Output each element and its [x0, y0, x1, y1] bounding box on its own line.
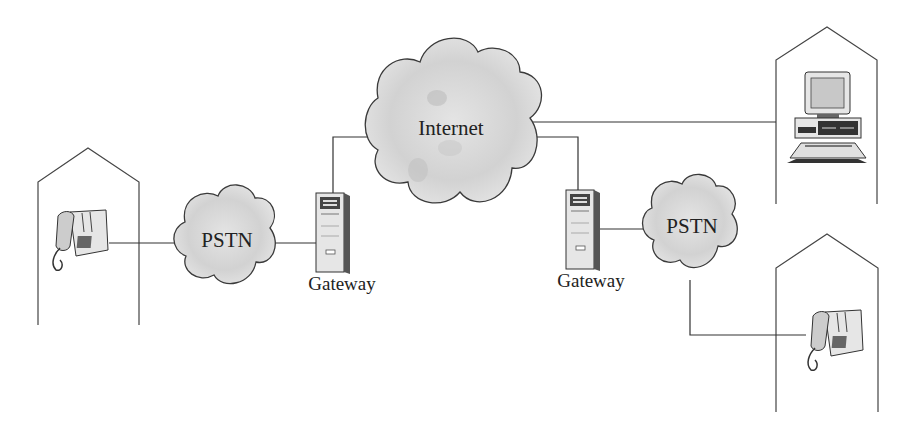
gateway-left-server-icon: [316, 193, 350, 274]
pstn-left-label: PSTN: [201, 228, 252, 253]
telephone-left-icon: [53, 210, 108, 270]
pstn-right-label: PSTN: [666, 214, 717, 239]
gateway-right-label: Gateway: [557, 270, 625, 292]
gateway-left-label: Gateway: [308, 273, 376, 295]
gateway-right-server-icon: [566, 190, 600, 271]
network-diagram: [0, 0, 914, 433]
telephone-right-icon: [808, 310, 863, 370]
computer-icon: [787, 72, 867, 163]
internet-label: Internet: [418, 116, 483, 141]
